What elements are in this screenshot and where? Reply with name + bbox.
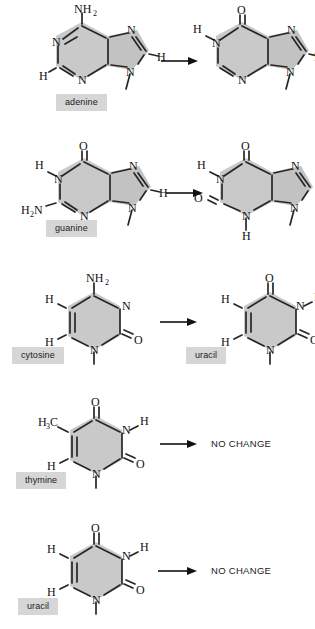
reaction-arrow	[158, 564, 198, 578]
atom-label-n1: N	[52, 35, 61, 49]
atom-label-n9: N	[128, 201, 137, 215]
atom-label-n1: N	[90, 343, 99, 357]
atom-label-n1: N	[266, 343, 275, 357]
atom-label-ch3-c: C	[50, 415, 58, 429]
atom-label-nh2-sub: 2	[93, 9, 97, 18]
atom-label-o2: O	[134, 333, 143, 347]
atom-label-o4: O	[91, 395, 100, 409]
atom-label-n1: N	[212, 36, 221, 50]
reaction-row-guanine: O N H H 2 N N N N H	[0, 128, 315, 260]
atom-label-n3: N	[78, 73, 87, 87]
atom-label-nh2: NH	[74, 2, 92, 16]
structure-hypoxanthine: O N H N N N H	[186, 6, 315, 98]
reaction-arrow	[160, 315, 198, 329]
atom-label-h2n-h: H	[21, 203, 30, 217]
atom-label-n3: N	[242, 209, 251, 223]
atom-label-h-n1: H	[193, 22, 202, 36]
atom-label-n1: N	[92, 593, 101, 607]
atom-label-n7: N	[291, 159, 300, 173]
atom-label-h-n3: H	[242, 229, 251, 243]
structure-uracil-product: O H H N H N O	[218, 272, 315, 364]
reaction-row-uracil: O H H N H N O NO CHANGE uracil	[0, 502, 315, 629]
no-change-text-uracil: NO CHANGE	[211, 565, 271, 576]
atom-label-o2: O	[136, 457, 145, 471]
atom-label-o6: O	[237, 3, 246, 17]
atom-label-h6: H	[47, 585, 56, 599]
label-adenine: adenine	[56, 94, 107, 111]
atom-label-h6: H	[47, 459, 56, 473]
atom-label-h5: H	[45, 292, 54, 306]
atom-label-h-n1: H	[197, 158, 206, 172]
atom-label-h-n1: H	[35, 158, 44, 172]
atom-label-n7: N	[129, 159, 138, 173]
atom-label-n9: N	[290, 201, 299, 215]
atom-label-o2: O	[310, 333, 315, 347]
atom-label-h5: H	[47, 542, 56, 556]
atom-label-h-n3: H	[314, 290, 315, 304]
atom-label-n9: N	[126, 65, 135, 79]
atom-label-o2: O	[194, 191, 203, 205]
atom-label-n3: N	[122, 549, 131, 563]
atom-label-n3: N	[238, 73, 247, 87]
atom-label-n3: N	[296, 299, 305, 313]
atom-label-n9: N	[286, 65, 295, 79]
atom-label-n1: N	[54, 172, 63, 186]
atom-label-o2: O	[136, 583, 145, 597]
atom-label-h-n3: H	[140, 540, 149, 554]
atom-label-h2: H	[39, 69, 48, 83]
atom-label-h-n3: H	[140, 414, 149, 428]
no-change-text-thymine: NO CHANGE	[211, 438, 271, 449]
atom-label-h2n-n: N	[34, 203, 43, 217]
reaction-arrow	[160, 437, 198, 451]
label-thymine: thymine	[16, 472, 66, 489]
atom-label-n7: N	[127, 23, 136, 37]
reaction-row-cytosine: NH 2 H H N N O	[0, 260, 315, 380]
atom-label-o4: O	[265, 271, 274, 285]
reaction-row-adenine: NH 2 N N N N H H	[0, 0, 315, 128]
label-uracil-product: uracil	[186, 347, 226, 364]
atom-label-o6: O	[79, 139, 88, 153]
atom-label-h8: H	[314, 50, 315, 64]
atom-label-n1: N	[92, 467, 101, 481]
atom-label-h5: H	[221, 292, 230, 306]
atom-label-o4: O	[91, 521, 100, 535]
reaction-row-thymine: O H 3 C H N H N O NO CHANGE thymine	[0, 380, 315, 502]
atom-label-nh2-sub: 2	[105, 278, 109, 287]
atom-label-n3: N	[122, 423, 131, 437]
atom-label-n3: N	[122, 299, 131, 313]
atom-label-nh2: NH	[86, 271, 104, 285]
structure-xanthine: O N H O N H N N H	[190, 140, 315, 245]
label-cytosine: cytosine	[12, 347, 64, 364]
structure-adenine: NH 2 N N N N H H	[22, 6, 162, 98]
atom-label-n1: N	[216, 172, 225, 186]
label-uracil: uracil	[18, 598, 58, 615]
label-guanine: guanine	[46, 220, 97, 237]
atom-label-o6: O	[241, 139, 250, 153]
atom-label-n7: N	[287, 23, 296, 37]
